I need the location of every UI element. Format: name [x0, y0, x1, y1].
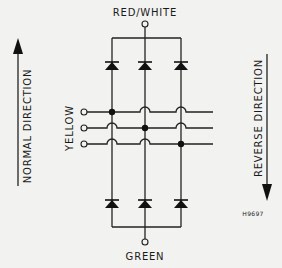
upper-diodes [105, 62, 188, 70]
diode-icon [138, 200, 152, 208]
bottom-terminal-label: GREEN [126, 251, 165, 262]
bottom-terminal [142, 239, 148, 245]
lower-diodes [105, 200, 188, 208]
reverse-direction-label: REVERSE DIRECTION [253, 59, 264, 177]
phase-label: YELLOW [64, 105, 75, 152]
diode-icon [174, 200, 188, 208]
top-terminal [142, 21, 148, 27]
phase-lines [87, 107, 213, 144]
diode-icon [105, 62, 119, 70]
arrow-down-icon [262, 184, 272, 201]
diode-icon [174, 62, 188, 70]
diode-icon [105, 200, 119, 208]
phase-terminals [81, 109, 87, 147]
rectifier-diagram: RED/WHITE [0, 0, 282, 268]
normal-direction-label: NORMAL DIRECTION [22, 69, 33, 184]
figure-code: H9697 [242, 210, 263, 217]
arrow-up-icon [13, 38, 23, 54]
top-terminal-label: RED/WHITE [113, 7, 177, 18]
diode-icon [138, 62, 152, 70]
